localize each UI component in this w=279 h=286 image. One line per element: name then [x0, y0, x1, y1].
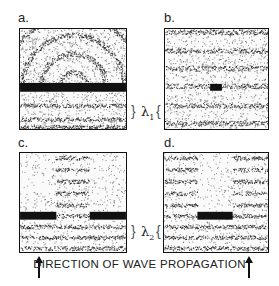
- lambda1-left-brace: }: [131, 103, 136, 119]
- panel-c-label: c.: [18, 136, 28, 149]
- lambda2-left-brace: }: [131, 223, 136, 239]
- up-arrow-right-icon: [244, 256, 254, 278]
- wide-barrier: [197, 212, 232, 220]
- panel-a-label: a.: [18, 11, 29, 24]
- panel-d-label: d.: [164, 136, 175, 149]
- lambda2-right-brace: {: [156, 223, 161, 239]
- panel-c: [19, 152, 127, 253]
- panel-a-diagram: [20, 29, 126, 129]
- lambda1-subscript: 1: [149, 113, 154, 122]
- panel-a: [19, 28, 127, 130]
- breakwater-barrier: [20, 83, 126, 92]
- lambda2-symbol: λ: [141, 224, 149, 239]
- panel-b-label: b.: [164, 11, 175, 24]
- right-barrier: [90, 212, 126, 220]
- panel-d-diagram: [164, 153, 268, 252]
- lambda1-right-brace: {: [156, 103, 161, 119]
- panel-b-diagram: [165, 29, 268, 129]
- left-barrier: [20, 212, 56, 220]
- lambda1-label: λ1: [141, 104, 154, 122]
- panel-b: [164, 28, 269, 130]
- panel-c-diagram: [20, 153, 126, 252]
- figure-caption: DIRECTION OF WAVE PROPAGATION: [0, 258, 279, 270]
- lambda1-symbol: λ: [141, 104, 149, 119]
- lambda2-label: λ2: [141, 224, 154, 242]
- small-obstacle: [210, 84, 222, 91]
- panel-d: [163, 152, 269, 253]
- lambda2-subscript: 2: [149, 233, 154, 242]
